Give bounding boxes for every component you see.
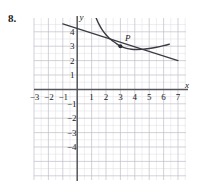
x-tick-5: 5 xyxy=(147,92,152,102)
point-p-marker xyxy=(118,44,122,48)
y-tick-3: 3 xyxy=(70,41,75,51)
y-tick--1: −1 xyxy=(67,99,77,109)
curve-path xyxy=(96,17,169,49)
y-tick-4: 4 xyxy=(70,27,75,37)
x-tick-4: 4 xyxy=(133,92,138,102)
x-tick-2: 2 xyxy=(104,92,109,102)
y-tick-2: 2 xyxy=(70,56,75,66)
y-tick-1: 1 xyxy=(70,70,75,80)
x-tick-3: 3 xyxy=(118,92,123,102)
y-tick--3: −3 xyxy=(67,128,77,138)
x-tick--3: −3 xyxy=(30,92,40,102)
x-axis-label: x xyxy=(184,80,189,90)
y-axis-label: y xyxy=(79,12,84,22)
coordinate-plot: y x P −3−2−11234567 4321−1−2−3−4 xyxy=(0,0,202,194)
x-tick-labels: −3−2−11234567 xyxy=(30,92,181,102)
x-tick-6: 6 xyxy=(161,92,166,102)
x-tick-7: 7 xyxy=(176,92,181,102)
point-p-label: P xyxy=(124,33,131,43)
x-tick--2: −2 xyxy=(44,92,54,102)
figure-container: 8. xyxy=(0,0,202,194)
y-tick--4: −4 xyxy=(67,142,77,152)
y-tick--2: −2 xyxy=(67,113,77,123)
x-tick-1: 1 xyxy=(89,92,94,102)
